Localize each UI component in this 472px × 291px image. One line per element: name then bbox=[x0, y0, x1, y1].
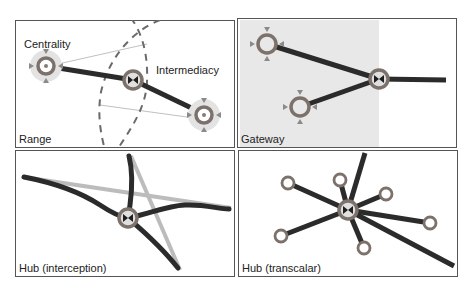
local-node bbox=[358, 242, 370, 254]
local-node bbox=[380, 188, 392, 200]
panel-hub-interception: Hub (interception) bbox=[16, 151, 235, 277]
intermediacy-hub-node bbox=[124, 71, 142, 89]
panel-hub-transcalar: Hub (transcalar) bbox=[239, 151, 458, 277]
local-node bbox=[275, 230, 287, 242]
panel-label-gateway: Gateway bbox=[241, 133, 285, 145]
local-node bbox=[334, 174, 346, 186]
interception-hub-node bbox=[119, 209, 137, 227]
local-node bbox=[282, 177, 294, 189]
centrality-label: Centrality bbox=[24, 38, 71, 50]
local-node bbox=[424, 217, 436, 229]
intermediacy-label: Intermediacy bbox=[156, 64, 219, 76]
panel-gateway: Gateway bbox=[238, 19, 457, 148]
network-diagram: Centrality Intermediacy Range Gateway bbox=[0, 0, 472, 291]
panel-range: Centrality Intermediacy Range bbox=[16, 18, 235, 150]
gateway-hub-node bbox=[370, 70, 388, 88]
panel-label-hub-transcalar: Hub (transcalar) bbox=[242, 262, 321, 274]
panel-label-hub-interception: Hub (interception) bbox=[19, 262, 106, 274]
panel-label-range: Range bbox=[19, 133, 51, 145]
transcalar-hub-node bbox=[339, 201, 357, 219]
